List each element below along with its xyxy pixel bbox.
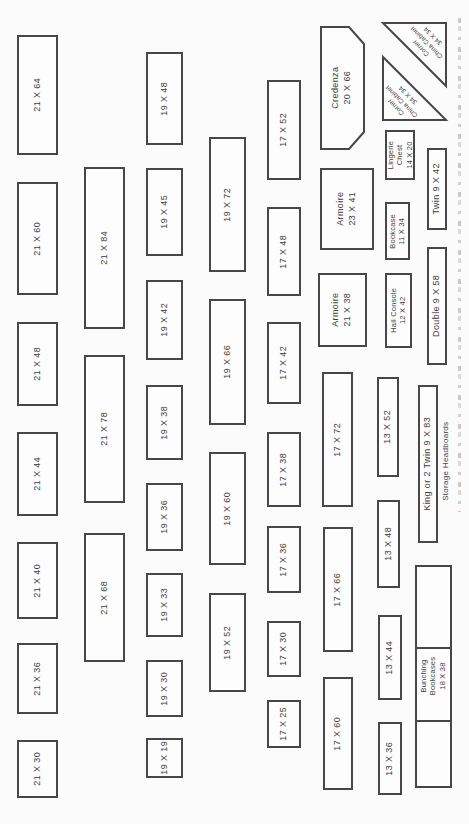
template-13x36-label: 13 X 36	[384, 742, 396, 776]
furniture-template-sheet: 21 X 6421 X 6021 X 4821 X 4421 X 4021 X …	[0, 0, 469, 824]
template-21x60: 21 X 60	[17, 182, 58, 295]
template-double-headboard-9x58: Double 9 X 58	[427, 247, 447, 365]
fine-print-text-illegible	[458, 18, 461, 512]
template-19x38: 19 X 38	[146, 385, 183, 460]
template-21x40-label: 21 X 40	[32, 564, 44, 598]
template-21x40: 21 X 40	[17, 542, 58, 619]
template-13x48: 13 X 48	[377, 500, 400, 588]
template-credenza-20x66: Credenza 20 X 66	[320, 26, 365, 150]
template-lingerie-chest-14x20: Lingerie Chest 14 X 20	[385, 130, 415, 180]
template-13x44-label: 13 X 44	[384, 641, 396, 675]
template-armoire-23x41: Armoire 23 X 41	[320, 168, 374, 250]
template-19x66-label: 19 X 66	[222, 345, 234, 379]
template-19x19: 19 X 19	[146, 738, 183, 778]
template-17x42: 17 X 42	[267, 322, 301, 404]
label-storage-headboards: Storage Headboards	[438, 408, 456, 514]
template-21x44: 21 X 44	[17, 432, 58, 516]
template-17x72: 17 X 72	[322, 372, 353, 507]
template-17x52: 17 X 52	[267, 80, 301, 180]
template-bookcase-11x34: Bookcase 11 X 34	[385, 202, 410, 260]
label-storage-headboards-label: Storage Headboards	[442, 421, 452, 500]
template-21x68-label: 21 X 68	[99, 581, 111, 615]
template-17x60: 17 X 60	[323, 677, 353, 790]
template-17x48-label: 17 X 48	[278, 235, 290, 269]
template-twin-headboard-9x42-label: Twin 9 X 42	[431, 163, 443, 214]
template-21x64: 21 X 64	[17, 35, 58, 155]
template-19x30: 19 X 30	[146, 660, 183, 717]
template-armoire-21x38-label: Armoire 21 X 38	[331, 293, 354, 327]
template-corner-china-cabinet-lower: Corner China Cabinet 34 X 34	[382, 56, 447, 121]
template-lingerie-chest-14x20-label: Lingerie Chest 14 X 20	[386, 141, 414, 169]
template-19x45-label: 19 X 45	[159, 195, 171, 229]
template-19x52-label: 19 X 52	[222, 626, 234, 660]
template-19x48-label: 19 X 48	[159, 82, 171, 116]
template-21x84: 21 X 84	[84, 167, 125, 329]
template-19x60-label: 19 X 60	[222, 492, 234, 526]
template-double-headboard-9x58-label: Double 9 X 58	[431, 275, 443, 337]
template-13x44: 13 X 44	[378, 615, 402, 700]
template-21x30: 21 X 30	[17, 740, 58, 798]
template-19x48: 19 X 48	[146, 52, 183, 145]
template-hall-console-12x42-label: Hall Console 12 X 42	[389, 288, 408, 333]
template-17x48: 17 X 48	[267, 207, 301, 296]
section-divider-line	[417, 720, 450, 722]
template-17x25-label: 17 X 25	[278, 707, 290, 741]
template-19x45: 19 X 45	[146, 168, 183, 256]
template-21x30-label: 21 X 30	[32, 752, 44, 786]
template-19x30-label: 19 X 30	[159, 672, 171, 706]
template-17x30: 17 X 30	[267, 621, 301, 677]
template-17x30-label: 17 X 30	[278, 632, 290, 666]
template-17x25: 17 X 25	[267, 700, 301, 748]
template-17x42-label: 17 X 42	[278, 346, 290, 380]
template-17x60-label: 17 X 60	[332, 717, 344, 751]
template-13x52: 13 X 52	[377, 377, 399, 477]
template-bookcase-11x34-label: Bookcase 11 X 34	[388, 214, 407, 249]
template-21x48: 21 X 48	[17, 322, 58, 406]
template-credenza-20x66-label: Credenza 20 X 66	[331, 67, 354, 109]
section-divider-line	[417, 647, 450, 649]
template-17x66: 17 X 66	[323, 527, 353, 652]
template-armoire-21x38: Armoire 21 X 38	[318, 273, 367, 347]
template-19x36: 19 X 36	[146, 483, 183, 551]
template-hall-console-12x42: Hall Console 12 X 42	[385, 273, 412, 348]
template-21x36: 21 X 36	[17, 643, 58, 714]
template-13x48-label: 13 X 48	[383, 527, 395, 561]
template-19x42-label: 19 X 42	[159, 303, 171, 337]
template-19x38-label: 19 X 38	[159, 406, 171, 440]
template-bunching-bookcases-18x38-label: Bunching Bookcases 18 X 38	[419, 657, 447, 696]
template-king-headboard-9x83: King or 2 Twin 9 X 83	[418, 385, 438, 543]
template-19x72-label: 19 X 72	[222, 188, 234, 222]
template-17x72-label: 17 X 72	[332, 423, 344, 457]
template-armoire-23x41-label: Armoire 23 X 41	[335, 192, 358, 226]
template-21x78-label: 21 X 78	[99, 412, 111, 446]
template-19x52: 19 X 52	[209, 593, 246, 692]
template-19x42: 19 X 42	[146, 280, 183, 360]
template-21x84-label: 21 X 84	[99, 231, 111, 265]
template-19x19-label: 19 X 19	[159, 741, 171, 775]
template-17x52-label: 17 X 52	[278, 113, 290, 147]
template-21x44-label: 21 X 44	[32, 457, 44, 491]
template-17x36-label: 17 X 36	[278, 543, 290, 577]
template-21x60-label: 21 X 60	[32, 222, 44, 256]
template-17x38-label: 17 X 38	[278, 453, 290, 487]
template-19x33: 19 X 33	[146, 573, 183, 637]
template-21x78: 21 X 78	[84, 355, 125, 503]
template-bunching-bookcases-18x38: Bunching Bookcases 18 X 38	[415, 565, 452, 788]
template-21x64-label: 21 X 64	[32, 78, 44, 112]
template-13x52-label: 13 X 52	[382, 410, 394, 444]
template-21x48-label: 21 X 48	[32, 347, 44, 381]
template-17x38: 17 X 38	[267, 432, 301, 507]
template-17x36: 17 X 36	[267, 526, 301, 593]
template-21x68: 21 X 68	[84, 533, 125, 662]
template-king-headboard-9x83-label: King or 2 Twin 9 X 83	[422, 417, 434, 511]
template-19x36-label: 19 X 36	[159, 500, 171, 534]
template-19x60: 19 X 60	[209, 452, 246, 565]
template-21x36-label: 21 X 36	[32, 662, 44, 696]
template-13x36: 13 X 36	[378, 722, 402, 795]
template-19x66: 19 X 66	[209, 299, 246, 425]
template-19x72: 19 X 72	[209, 137, 246, 272]
template-19x33-label: 19 X 33	[159, 588, 171, 622]
template-twin-headboard-9x42: Twin 9 X 42	[427, 148, 447, 230]
template-17x66-label: 17 X 66	[332, 573, 344, 607]
